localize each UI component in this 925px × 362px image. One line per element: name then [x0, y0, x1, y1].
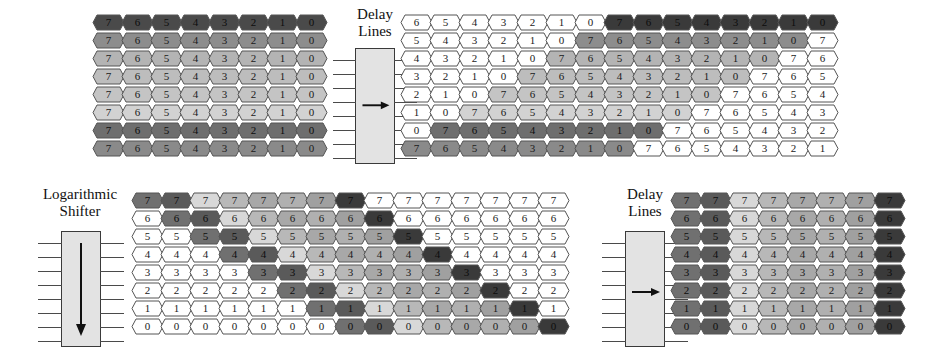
delay-lines-input-grid-cell: 0 [295, 122, 328, 139]
logarithmic-shifter-output-grid: 7777777777777776666666666666665555555555… [131, 192, 566, 336]
delay-lines-output-grid-cell: 0 [806, 14, 839, 31]
logarithmic-shifter-output-grid-row: 000000000000000 [131, 318, 566, 336]
cell-label: 0 [295, 14, 328, 31]
cell-label: 0 [537, 318, 570, 335]
cell-label: 3 [806, 104, 839, 121]
cell-label: 7 [537, 192, 570, 209]
cell-label: 0 [295, 86, 328, 103]
delay-lines-input-grid-cell: 0 [295, 104, 328, 121]
delay-lines-input-grid-row: 76543210 [92, 140, 324, 158]
delay-lines-bottom-output-grid-row: 66666666 [670, 210, 902, 228]
delay-lines-bottom-output-grid-cell: 1 [873, 300, 906, 317]
logarithmic-shifter-output-grid-cell: 4 [537, 246, 570, 263]
logarithmic-shifter-output-grid-cell: 1 [537, 300, 570, 317]
delay-lines-input-grid-row: 76543210 [92, 122, 324, 140]
diagram-canvas: 7654321076543210765432107654321076543210… [0, 0, 925, 362]
logarithmic-shifter-output-grid-cell: 0 [537, 318, 570, 335]
delay-lines-output-grid-cell: 5 [806, 68, 839, 85]
cell-label: 7 [873, 192, 906, 209]
cell-label: 1 [806, 140, 839, 157]
cell-label: 5 [806, 68, 839, 85]
delay-lines-bottom-output-grid-cell: 5 [873, 228, 906, 245]
logarithmic-shifter-output-grid-row: 666666666666666 [131, 210, 566, 228]
cell-label: 1 [873, 300, 906, 317]
delay-lines-input-grid: 7654321076543210765432107654321076543210… [92, 14, 324, 158]
delay-lines-output-grid-row: 765432107654321 [400, 140, 835, 158]
logarithmic-shifter-output-grid-cell: 3 [537, 264, 570, 281]
cell-label: 6 [873, 210, 906, 227]
delay-lines-output-grid-cell: 4 [806, 86, 839, 103]
delay-lines-output-grid-cell: 2 [806, 122, 839, 139]
logarithmic-shifter-output-grid-cell: 2 [537, 282, 570, 299]
cell-label: 0 [873, 318, 906, 335]
delay-lines-input-grid-cell: 0 [295, 50, 328, 67]
cell-label: 0 [806, 14, 839, 31]
cell-label: 0 [295, 50, 328, 67]
logarithmic-shifter-output-grid-cell: 7 [537, 192, 570, 209]
delay-lines-output-grid-row: 210765432107654 [400, 86, 835, 104]
logarithmic-shifter-output-grid-row: 111111111111111 [131, 300, 566, 318]
cell-label: 4 [873, 246, 906, 263]
delay-lines-input-grid-row: 76543210 [92, 86, 324, 104]
cell-label: 0 [295, 32, 328, 49]
delay-lines-output-grid-row: 543210765432107 [400, 32, 835, 50]
delay-lines-bottom-output-grid-row: 11111111 [670, 300, 902, 318]
down-arrow-icon [20, 186, 140, 356]
logarithmic-shifter-output-grid-cell: 6 [537, 210, 570, 227]
cell-label: 0 [295, 68, 328, 85]
logarithmic-shifter-output-grid-row: 555555555555555 [131, 228, 566, 246]
delay-lines-input-grid-cell: 0 [295, 32, 328, 49]
delay-lines-output-grid-cell: 6 [806, 50, 839, 67]
delay-lines-bottom-output-grid-row: 77777777 [670, 192, 902, 210]
delay-lines-output-grid-row: 076543210765432 [400, 122, 835, 140]
delay-lines-bottom-output-grid-cell: 7 [873, 192, 906, 209]
delay-lines-bottom-output-grid-cell: 4 [873, 246, 906, 263]
cell-label: 3 [873, 264, 906, 281]
delay-lines-input-grid-cell: 0 [295, 140, 328, 157]
logarithmic-shifter-output-grid-row: 222222222222222 [131, 282, 566, 300]
delay-lines-input-grid-cell: 0 [295, 14, 328, 31]
delay-lines-input-grid-cell: 0 [295, 68, 328, 85]
delay-lines-bottom-output-grid-row: 22222222 [670, 282, 902, 300]
delay-lines-output-grid-cell: 3 [806, 104, 839, 121]
delay-lines-bottom-output-grid: 7777777766666666555555554444444433333333… [670, 192, 902, 336]
delay-lines-input-grid-row: 76543210 [92, 14, 324, 32]
delay-lines-bottom-output-grid-row: 55555555 [670, 228, 902, 246]
logarithmic-shifter-output-grid-row: 777777777777777 [131, 192, 566, 210]
cell-label: 2 [873, 282, 906, 299]
delay-lines-output-grid-row: 107654321076543 [400, 104, 835, 122]
logarithmic-shifter-output-grid-row: 444444444444444 [131, 246, 566, 264]
cell-label: 2 [537, 282, 570, 299]
cell-label: 2 [806, 122, 839, 139]
delay-lines-output-grid-cell: 7 [806, 32, 839, 49]
cell-label: 4 [537, 246, 570, 263]
delay-lines-input-grid-row: 76543210 [92, 104, 324, 122]
delay-lines-bottom-output-grid-row: 44444444 [670, 246, 902, 264]
delay-lines-bottom-output-grid-cell: 2 [873, 282, 906, 299]
delay-lines-input-grid-cell: 0 [295, 86, 328, 103]
cell-label: 0 [295, 104, 328, 121]
logarithmic-shifter-output-grid-cell: 5 [537, 228, 570, 245]
cell-label: 7 [806, 32, 839, 49]
delay-lines-bottom-output-grid-row: 33333333 [670, 264, 902, 282]
delay-lines-output-grid-row: 432107654321076 [400, 50, 835, 68]
logarithmic-shifter-output-grid-row: 333333333333333 [131, 264, 566, 282]
cell-label: 5 [537, 228, 570, 245]
cell-label: 4 [806, 86, 839, 103]
delay-lines-output-grid-row: 321076543210765 [400, 68, 835, 86]
cell-label: 0 [295, 122, 328, 139]
delay-lines-input-grid-row: 76543210 [92, 50, 324, 68]
delay-lines-bottom-output-grid-cell: 3 [873, 264, 906, 281]
logarithmic-shifter-module: Logarithmic Shifter [20, 186, 140, 356]
cell-label: 3 [537, 264, 570, 281]
delay-lines-output-grid-row: 654321076543210 [400, 14, 835, 32]
delay-lines-input-grid-row: 76543210 [92, 68, 324, 86]
delay-lines-bottom-output-grid-cell: 6 [873, 210, 906, 227]
cell-label: 5 [873, 228, 906, 245]
cell-label: 6 [537, 210, 570, 227]
delay-lines-output-grid-cell: 1 [806, 140, 839, 157]
delay-lines-bottom-output-grid-cell: 0 [873, 318, 906, 335]
delay-lines-input-grid-row: 76543210 [92, 32, 324, 50]
delay-lines-output-grid: 6543210765432105432107654321074321076543… [400, 14, 835, 158]
delay-lines-bottom-output-grid-row: 00000000 [670, 318, 902, 336]
